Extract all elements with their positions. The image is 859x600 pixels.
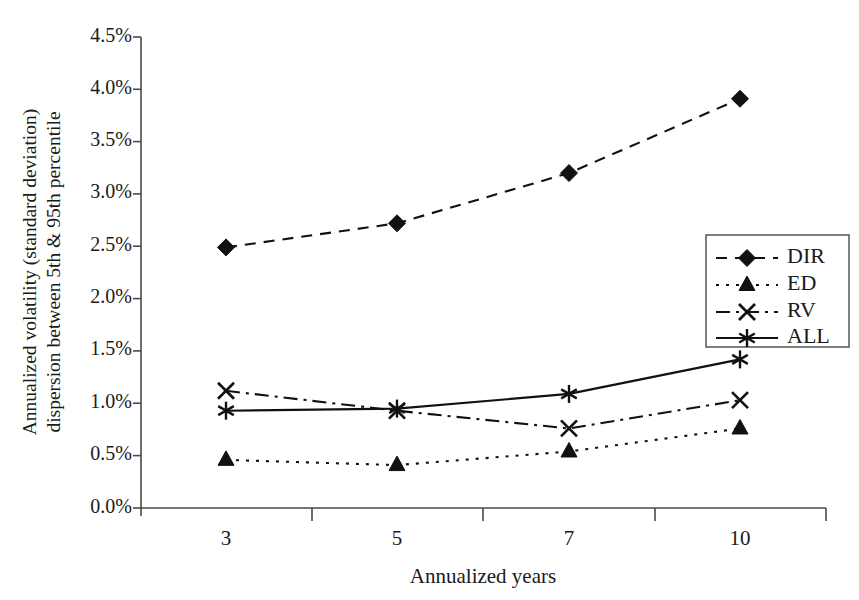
series-all-marker-3 bbox=[732, 350, 748, 368]
series-rv-marker-3 bbox=[732, 392, 748, 408]
x-tick-label-3: 10 bbox=[730, 526, 751, 550]
series-dir-marker-0 bbox=[218, 239, 235, 256]
y-axis-title-line2: dispersion between 5th & 95th percentile bbox=[43, 111, 64, 432]
y-tick-label-2: 1.0% bbox=[90, 390, 132, 412]
chart-container: Annualized volatility (standard deviatio… bbox=[0, 0, 859, 600]
series-dir-marker-1 bbox=[389, 215, 406, 232]
y-axis-title: Annualized volatility (standard deviatio… bbox=[19, 109, 64, 436]
series-ed-marker-1 bbox=[389, 456, 405, 471]
series-ed-line bbox=[226, 429, 740, 466]
series-ed-marker-0 bbox=[218, 451, 234, 466]
y-tick-labels: 0.0% 0.5% 1.0% 1.5% 2.0% 2.5% 3.0% 3.5% … bbox=[90, 24, 132, 517]
y-tick-label-0: 0.0% bbox=[90, 495, 132, 517]
chart-legend: DIR ED RV bbox=[706, 235, 849, 348]
y-tick-label-5: 2.5% bbox=[90, 233, 132, 255]
y-tick-label-4: 2.0% bbox=[90, 285, 132, 307]
x-tick-label-0: 3 bbox=[221, 526, 232, 550]
x-tick-labels: 3 5 7 10 bbox=[221, 526, 751, 550]
series-all bbox=[218, 350, 748, 419]
x-tick-label-2: 7 bbox=[564, 526, 575, 550]
y-tick-label-9: 4.5% bbox=[90, 24, 132, 46]
x-axis-title: Annualized years bbox=[410, 564, 556, 588]
legend-label-all: ALL bbox=[787, 323, 830, 348]
series-ed-marker-3 bbox=[732, 419, 748, 434]
y-axis-title-line1: Annualized volatility (standard deviatio… bbox=[19, 109, 41, 436]
series-dir bbox=[218, 90, 749, 256]
y-tick-label-1: 0.5% bbox=[90, 442, 132, 464]
line-chart: Annualized volatility (standard deviatio… bbox=[0, 0, 859, 600]
legend-label-dir: DIR bbox=[787, 243, 825, 268]
y-tick-label-7: 3.5% bbox=[90, 128, 132, 150]
series-dir-marker-3 bbox=[732, 90, 749, 107]
x-axis bbox=[141, 508, 826, 521]
legend-label-rv: RV bbox=[787, 297, 816, 322]
series-dir-marker-2 bbox=[561, 165, 578, 182]
y-tick-label-6: 3.0% bbox=[90, 180, 132, 202]
y-axis bbox=[133, 37, 141, 508]
y-tick-label-8: 4.0% bbox=[90, 76, 132, 98]
legend-label-ed: ED bbox=[787, 270, 816, 295]
series-ed-marker-2 bbox=[561, 442, 577, 457]
series-dir-line bbox=[226, 99, 740, 248]
x-tick-label-1: 5 bbox=[392, 526, 403, 550]
series-ed bbox=[218, 419, 748, 470]
y-tick-label-3: 1.5% bbox=[90, 337, 132, 359]
series-all-line bbox=[226, 359, 740, 410]
